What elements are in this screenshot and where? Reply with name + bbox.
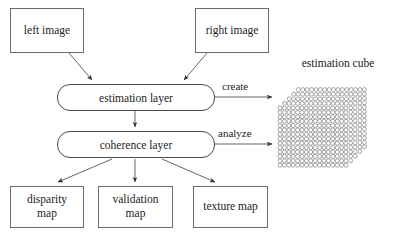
estimation-cube-title: estimation cube bbox=[288, 57, 388, 69]
node-left-image-label: left image bbox=[24, 24, 70, 38]
node-validation-map[interactable]: validation map bbox=[98, 186, 173, 228]
cube-slice bbox=[277, 105, 348, 167]
node-texture-map-label: texture map bbox=[203, 200, 258, 214]
edge-coherence-to-texture bbox=[162, 159, 215, 182]
estimation-cube-graphic bbox=[270, 70, 390, 180]
edge-left-image-to-estimation bbox=[69, 53, 92, 80]
node-disparity-map-label: disparity map bbox=[27, 193, 67, 220]
edge-label-create: create bbox=[222, 80, 248, 92]
node-disparity-map[interactable]: disparity map bbox=[10, 186, 84, 228]
node-coherence-layer-label: coherence layer bbox=[100, 139, 172, 151]
edge-label-analyze: analyze bbox=[218, 127, 252, 139]
node-validation-map-label: validation map bbox=[113, 193, 159, 220]
node-estimation-layer-label: estimation layer bbox=[99, 92, 173, 104]
node-estimation-layer[interactable]: estimation layer bbox=[57, 84, 215, 111]
node-left-image[interactable]: left image bbox=[10, 8, 84, 53]
node-right-image[interactable]: right image bbox=[195, 8, 269, 53]
edge-right-image-to-estimation bbox=[184, 53, 207, 80]
node-texture-map[interactable]: texture map bbox=[193, 186, 268, 228]
node-right-image-label: right image bbox=[206, 24, 259, 38]
diagram-canvas: left image right image estimation layer … bbox=[0, 0, 393, 236]
edge-coherence-to-disparity bbox=[58, 159, 112, 182]
node-coherence-layer[interactable]: coherence layer bbox=[57, 131, 215, 158]
